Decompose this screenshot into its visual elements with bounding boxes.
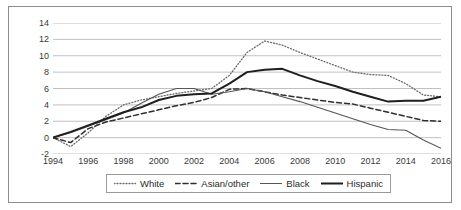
x-axis-tick-label: 2010 [325, 157, 345, 166]
series-line-hispanic [53, 69, 441, 138]
legend-item-asian-other[interactable]: Asian/other [175, 179, 249, 189]
line-chart-svg [53, 23, 441, 154]
series-line-black [53, 89, 441, 149]
legend-swatch-dashed [175, 179, 197, 188]
y-axis-tick-label: 0 [23, 133, 49, 142]
y-axis-tick-label: 4 [23, 100, 49, 109]
legend-swatch-solid-thick [321, 179, 343, 188]
x-axis-tick-label: 1996 [78, 157, 98, 166]
series-lines [53, 41, 441, 148]
y-axis: 14121086420-2 [19, 23, 49, 154]
y-axis-tick-label: 10 [23, 51, 49, 60]
x-axis-tick-label: 2000 [149, 157, 169, 166]
legend-item-hispanic[interactable]: Hispanic [321, 179, 383, 189]
legend-label: Asian/other [201, 179, 249, 189]
plot-area [53, 23, 441, 154]
chart-legend: WhiteAsian/otherBlackHispanic [106, 174, 391, 193]
legend-label: White [140, 179, 164, 189]
y-axis-tick-label: 2 [23, 117, 49, 126]
legend-swatch-solid-thin [260, 179, 282, 188]
figure-frame: 14121086420-2 19941996199820002002200420… [8, 6, 452, 203]
legend-label: Hispanic [347, 179, 383, 189]
x-axis: 1994199619982000200220042006200820102012… [53, 157, 441, 171]
legend-item-black[interactable]: Black [260, 179, 309, 189]
x-axis-tick-label: 2012 [360, 157, 380, 166]
y-axis-tick-label: 12 [23, 35, 49, 44]
x-axis-tick-label: 2016 [431, 157, 451, 166]
x-axis-tick-label: 2004 [219, 157, 239, 166]
x-axis-tick-label: 2006 [255, 157, 275, 166]
legend-swatch-dotted [114, 179, 136, 188]
y-axis-tick-label: 14 [23, 19, 49, 28]
y-axis-tick-label: 6 [23, 84, 49, 93]
legend-label: Black [286, 179, 309, 189]
x-axis-tick-label: 2008 [290, 157, 310, 166]
legend-item-white[interactable]: White [114, 179, 164, 189]
x-axis-tick-label: 1994 [43, 157, 63, 166]
x-axis-tick-label: 2002 [184, 157, 204, 166]
x-axis-tick-label: 1998 [114, 157, 134, 166]
series-line-asian-other [53, 89, 441, 143]
series-line-white [53, 41, 441, 147]
y-axis-tick-label: 8 [23, 68, 49, 77]
x-axis-tick-label: 2014 [396, 157, 416, 166]
chart-container: 14121086420-2 19941996199820002002200420… [0, 0, 461, 210]
